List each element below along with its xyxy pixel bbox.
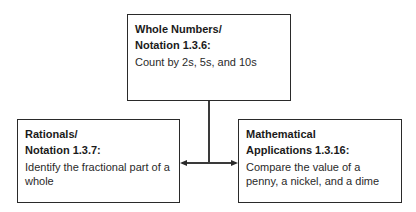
top-box-description: Count by 2s, 5s, and 10s: [135, 55, 283, 69]
left-box-rationals: Rationals/ Notation 1.3.7: Identify the …: [17, 119, 180, 203]
left-box-title-2: Notation 1.3.7:: [25, 142, 172, 158]
arrow-right-icon: [231, 160, 238, 166]
connector-horizontal-line: [182, 162, 236, 164]
connector-vertical-line: [208, 101, 210, 163]
right-box-title-1: Mathematical: [246, 126, 394, 142]
top-box-title-1: Whole Numbers/: [135, 21, 283, 37]
top-box-whole-numbers: Whole Numbers/ Notation 1.3.6: Count by …: [127, 14, 291, 101]
right-box-mathematical-applications: Mathematical Applications 1.3.16: Compar…: [238, 119, 402, 203]
right-box-description: Compare the value of a penny, a nickel, …: [246, 160, 394, 188]
right-box-title-2: Applications 1.3.16:: [246, 142, 394, 158]
left-box-description: Identify the fractional part of a whole: [25, 160, 172, 188]
left-box-title-1: Rationals/: [25, 126, 172, 142]
arrow-left-icon: [180, 160, 187, 166]
top-box-title-2: Notation 1.3.6:: [135, 37, 283, 53]
